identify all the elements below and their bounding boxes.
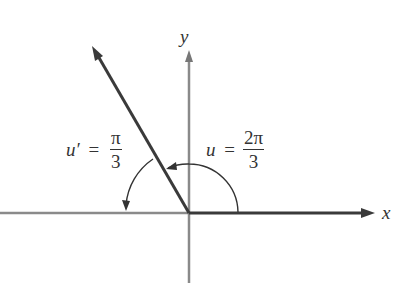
reference-angle-numerator: π <box>110 128 122 150</box>
reference-angle-variable: u′ <box>66 139 80 160</box>
reference-angle-fraction: π 3 <box>110 128 122 171</box>
reference-angle-arc <box>126 159 153 205</box>
y-axis-label: y <box>180 27 188 46</box>
angle-u-numerator: 2π <box>243 128 264 150</box>
reference-angle-equals: = <box>88 139 99 160</box>
y-axis-arrow-icon <box>185 50 193 62</box>
x-axis-arrow-icon <box>361 208 375 218</box>
angle-u-arc <box>168 164 238 212</box>
angle-u-equals: = <box>224 139 235 160</box>
reference-angle-arrow-icon <box>122 200 130 211</box>
angle-u-denominator: 3 <box>249 150 259 171</box>
reference-angle-denominator: 3 <box>111 150 121 171</box>
angle-u-fraction: 2π 3 <box>243 128 264 171</box>
angle-u-equation: u = <box>206 140 235 159</box>
angle-diagram <box>0 0 403 300</box>
angle-u-arrow-icon <box>166 162 177 170</box>
x-axis-label: x <box>382 203 390 222</box>
angle-u-variable: u <box>206 139 216 160</box>
terminal-ray-arrow-icon <box>92 46 103 61</box>
reference-angle-equation: u′ = <box>66 140 99 159</box>
